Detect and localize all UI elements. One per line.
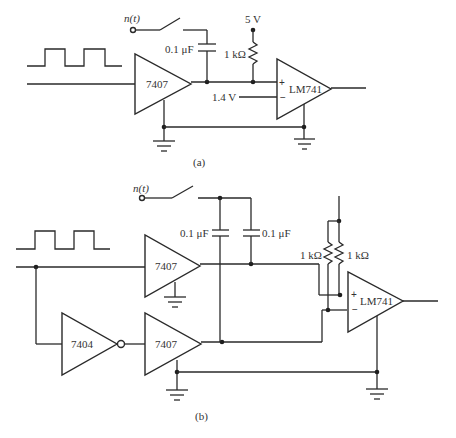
resistor2-label: 1 kΩ bbox=[347, 249, 369, 261]
switch-icon bbox=[131, 18, 208, 33]
resistor1-label: 1 kΩ bbox=[300, 249, 322, 261]
reference-label: 1.4 V bbox=[212, 91, 236, 103]
svg-text:−: − bbox=[280, 92, 286, 103]
panel-b: 7407 7404 7407 n(t) bbox=[16, 182, 438, 423]
buffer-label-7407: 7407 bbox=[146, 78, 169, 90]
supply-label: 5 V bbox=[245, 13, 261, 25]
capacitor-label: 0.1 μF bbox=[165, 43, 194, 55]
resistor-icon bbox=[324, 242, 332, 264]
ground-icon bbox=[366, 389, 388, 399]
svg-text:+: + bbox=[351, 289, 357, 300]
ground-icon bbox=[166, 390, 188, 400]
resistor-icon bbox=[335, 242, 343, 264]
ground-icon bbox=[294, 139, 315, 149]
opamp-label-lm741: LM741 bbox=[360, 295, 393, 307]
resistor-label: 1 kΩ bbox=[224, 48, 246, 60]
svg-text:+: + bbox=[279, 77, 285, 88]
opamp-label-lm741: LM741 bbox=[289, 83, 322, 95]
capacitor2-label: 0.1 μF bbox=[262, 227, 291, 239]
capacitor1-label: 0.1 μF bbox=[180, 227, 209, 239]
noise-label: n(t) bbox=[124, 12, 140, 25]
resistor-icon bbox=[249, 42, 257, 64]
noise-label: n(t) bbox=[133, 182, 149, 195]
panel-a: 7407 n(t) 0.1 μF 5 V bbox=[27, 12, 366, 169]
caption-a: (a) bbox=[193, 156, 206, 169]
square-wave-icon bbox=[27, 49, 122, 66]
inverter-label-7404: 7404 bbox=[71, 338, 94, 350]
switch-icon bbox=[140, 186, 252, 201]
ground-icon bbox=[153, 141, 175, 151]
capacitor-icon bbox=[198, 44, 216, 51]
buffer1-label-7407: 7407 bbox=[155, 260, 178, 272]
buffer2-label-7407: 7407 bbox=[155, 338, 178, 350]
caption-b: (b) bbox=[195, 410, 208, 423]
capacitor-icon bbox=[212, 230, 229, 236]
capacitor-icon bbox=[243, 230, 260, 236]
svg-text:−: − bbox=[352, 304, 358, 315]
ground-icon bbox=[164, 297, 186, 307]
circuit-figure: 7407 n(t) 0.1 μF 5 V bbox=[0, 0, 456, 438]
square-wave-icon bbox=[16, 231, 110, 249]
